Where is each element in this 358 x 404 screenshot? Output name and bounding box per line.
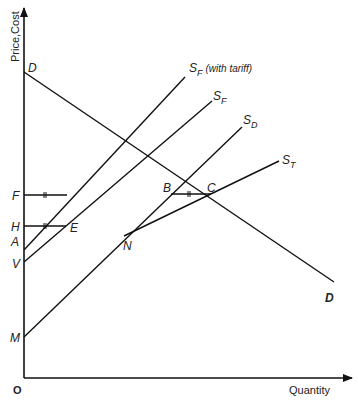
point-label-A: A [10,235,19,249]
supply-foreign-with-tariff-curve [24,77,185,250]
y-axis-label: Price,Cost [9,11,21,62]
point-label-M: M [10,331,20,345]
point-label-B: B [163,181,171,195]
demand-label-end: D [325,291,334,305]
x-axis-label: Quantity [289,384,330,396]
sf-tariff-label: SF(with tariff) [189,61,252,78]
supply-total-curve [124,161,279,236]
point-label-V: V [12,257,21,271]
point-label-C: C [207,181,216,195]
point-label-H: H [11,220,20,234]
point-label-F: F [12,189,20,203]
supply-foreign-curve [24,101,212,262]
st-label: ST [282,153,297,170]
point-label-N: N [123,239,132,253]
sd-label: SD [243,113,258,130]
point-label-E: E [70,221,79,235]
sf-label: SF [213,89,227,106]
demand-label-top: D [28,61,37,75]
tariff-supply-demand-diagram: Price,Cost Quantity O D D SF(with tariff… [0,0,358,404]
origin-label: O [13,384,22,396]
demand-curve [24,72,334,282]
